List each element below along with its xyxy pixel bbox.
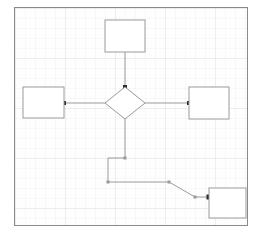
node-shape-rectangle[interactable] <box>209 188 246 218</box>
diagram-surface[interactable] <box>15 8 248 226</box>
connector-waypoint-handle[interactable] <box>194 196 197 199</box>
connector-top-to-decision[interactable] <box>123 52 127 89</box>
connector-waypoint-handles[interactable] <box>107 157 197 199</box>
edge-layer <box>62 52 212 200</box>
node-shape-diamond[interactable] <box>105 87 145 119</box>
node-shape-rectangle[interactable] <box>189 87 229 119</box>
connector-waypoint-handle[interactable] <box>168 181 171 184</box>
node-shape-rectangle[interactable] <box>23 87 64 118</box>
node-left[interactable] <box>23 87 64 118</box>
node-decision[interactable] <box>105 87 145 119</box>
node-top[interactable] <box>105 20 145 52</box>
node-bottom-right[interactable] <box>209 188 246 218</box>
connector-waypoint-handle[interactable] <box>124 157 127 160</box>
connector-line[interactable] <box>108 119 209 197</box>
connector-decision-to-bottom-right[interactable] <box>107 119 212 200</box>
node-right[interactable] <box>189 87 229 119</box>
node-layer <box>23 20 246 218</box>
connector-waypoint-handle[interactable] <box>107 181 110 184</box>
node-shape-rectangle[interactable] <box>105 20 145 52</box>
diagram-editor <box>0 0 276 239</box>
connector-decision-to-right[interactable] <box>145 101 191 105</box>
diagram-canvas[interactable] <box>14 7 248 226</box>
connector-decision-to-left[interactable] <box>62 101 105 105</box>
